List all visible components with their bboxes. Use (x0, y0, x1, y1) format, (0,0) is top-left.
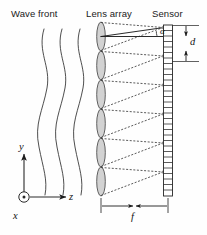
sensor-strip (164, 25, 173, 196)
label-angle-alpha: α (160, 27, 165, 36)
label-pitch-d: d (190, 37, 195, 48)
wave-front-curves (38, 29, 84, 195)
ray-bundles (101, 23, 163, 196)
figure-canvas: Wave front Lens array Sensor d f α y z x (0, 0, 207, 235)
label-lens-array: Lens array (86, 9, 132, 19)
label-axis-x: x (13, 211, 18, 222)
optics-diagram-svg (0, 0, 207, 235)
principal-rays (101, 28, 168, 37)
label-wave-front: Wave front (11, 9, 58, 19)
angle-arc (156, 31, 157, 36)
label-sensor: Sensor (152, 9, 183, 19)
label-axis-z: z (69, 192, 73, 203)
label-axis-y: y (19, 142, 24, 153)
dimension-f (101, 198, 168, 213)
lens-array (97, 22, 106, 196)
label-focal-length-f: f (131, 212, 134, 223)
